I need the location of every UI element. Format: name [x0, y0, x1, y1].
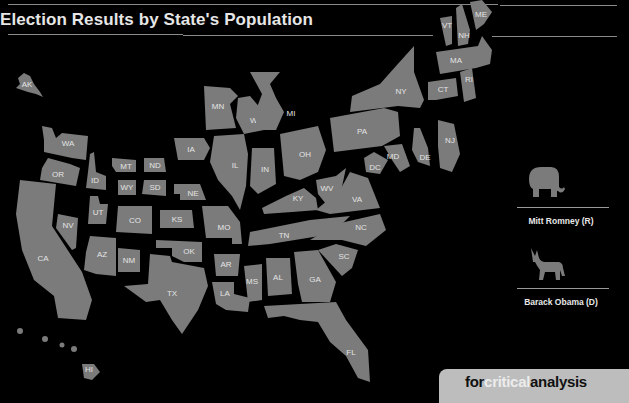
- state-AL[interactable]: AL: [266, 258, 292, 296]
- svg-text:KS: KS: [172, 215, 183, 224]
- svg-text:PA: PA: [357, 127, 368, 136]
- svg-text:CA: CA: [37, 254, 49, 263]
- svg-text:MT: MT: [120, 162, 132, 171]
- state-MN[interactable]: MN: [204, 86, 238, 130]
- svg-text:NH: NH: [458, 31, 470, 40]
- svg-text:WY: WY: [121, 183, 135, 192]
- svg-text:TN: TN: [279, 231, 290, 240]
- svg-text:NC: NC: [355, 223, 367, 232]
- svg-text:DC: DC: [369, 163, 381, 172]
- legend: Mitt Romney (R) Barack Obama (D): [505, 165, 617, 307]
- state-VT[interactable]: VT: [440, 16, 452, 46]
- svg-text:AZ: AZ: [97, 250, 107, 259]
- state-HI[interactable]: HI: [17, 328, 100, 380]
- state-NE[interactable]: NE: [174, 184, 206, 200]
- svg-text:OH: OH: [299, 150, 311, 159]
- state-MT[interactable]: MT: [112, 158, 136, 172]
- state-ME[interactable]: ME: [470, 0, 492, 30]
- state-FL[interactable]: FL: [264, 302, 370, 382]
- state-KS[interactable]: KS: [160, 210, 194, 228]
- svg-text:MI: MI: [287, 109, 296, 118]
- svg-text:DE: DE: [419, 153, 430, 162]
- state-AK[interactable]: AK: [16, 73, 43, 97]
- svg-text:MA: MA: [450, 56, 463, 65]
- state-NJ[interactable]: NJ: [438, 120, 460, 172]
- svg-text:FL: FL: [346, 348, 356, 357]
- svg-text:WA: WA: [62, 139, 75, 148]
- svg-text:MS: MS: [246, 277, 258, 286]
- svg-text:GA: GA: [309, 275, 321, 284]
- svg-text:NV: NV: [62, 221, 74, 230]
- state-UT[interactable]: UT: [88, 196, 108, 224]
- svg-text:AR: AR: [220, 260, 231, 269]
- state-ID[interactable]: ID: [86, 152, 106, 190]
- svg-text:ME: ME: [475, 10, 487, 19]
- state-MS[interactable]: MS: [244, 264, 262, 302]
- state-LA[interactable]: LA: [212, 282, 250, 312]
- state-DE[interactable]: DE: [412, 128, 431, 166]
- svg-text:VA: VA: [352, 195, 363, 204]
- legend-divider: [517, 288, 609, 289]
- svg-text:UT: UT: [93, 208, 104, 217]
- legend-label-republican: Mitt Romney (R): [505, 216, 617, 226]
- svg-text:CO: CO: [129, 216, 141, 225]
- state-ND[interactable]: ND: [144, 158, 166, 172]
- svg-text:WV: WV: [321, 184, 335, 193]
- svg-text:AL: AL: [273, 273, 283, 282]
- svg-text:LA: LA: [220, 289, 230, 298]
- svg-text:NJ: NJ: [445, 136, 455, 145]
- legend-divider: [517, 207, 609, 208]
- elephant-icon: [525, 165, 565, 199]
- state-RI[interactable]: RI: [460, 68, 476, 102]
- svg-text:KY: KY: [293, 194, 304, 203]
- state-MD[interactable]: MD: [384, 144, 410, 172]
- svg-text:RI: RI: [465, 75, 473, 84]
- state-KY[interactable]: KY: [262, 188, 318, 214]
- state-MI[interactable]: MI: [250, 72, 295, 130]
- state-WY[interactable]: WY: [118, 180, 136, 195]
- svg-text:OK: OK: [183, 247, 195, 256]
- svg-text:NE: NE: [187, 189, 198, 198]
- state-OH[interactable]: OH: [280, 126, 326, 180]
- svg-text:SD: SD: [149, 183, 160, 192]
- svg-text:CT: CT: [438, 85, 449, 94]
- svg-text:NM: NM: [123, 256, 136, 265]
- svg-text:MO: MO: [218, 223, 231, 232]
- svg-text:IN: IN: [261, 165, 269, 174]
- badge-word-for: for: [465, 373, 484, 390]
- svg-text:SC: SC: [338, 252, 349, 261]
- state-MO[interactable]: MO: [202, 206, 242, 244]
- state-CT[interactable]: CT: [428, 78, 458, 100]
- svg-text:IL: IL: [232, 161, 239, 170]
- donkey-icon: [527, 248, 567, 282]
- state-AR[interactable]: AR: [214, 254, 240, 276]
- svg-text:HI: HI: [85, 365, 93, 374]
- svg-text:VT: VT: [442, 21, 452, 30]
- svg-text:OR: OR: [52, 170, 64, 179]
- state-NH[interactable]: NH: [456, 4, 470, 46]
- svg-text:MN: MN: [212, 102, 225, 111]
- state-CA[interactable]: CA: [16, 180, 92, 320]
- badge-word-critical: critical: [484, 373, 530, 390]
- svg-text:AK: AK: [22, 80, 33, 89]
- badge-word-analysis: analysis: [530, 373, 587, 390]
- state-IL[interactable]: IL: [210, 134, 248, 210]
- svg-text:ID: ID: [91, 176, 99, 185]
- state-AZ[interactable]: AZ: [84, 236, 116, 276]
- state-SD[interactable]: SD: [142, 180, 166, 196]
- svg-text:TX: TX: [167, 289, 178, 298]
- state-CO[interactable]: CO: [116, 206, 152, 234]
- state-IN[interactable]: IN: [250, 148, 276, 194]
- state-OR[interactable]: OR: [40, 158, 80, 186]
- legend-label-democrat: Barack Obama (D): [505, 297, 617, 307]
- state-WA[interactable]: WA: [42, 126, 88, 160]
- for-critical-analysis-badge: forcriticalanalysis: [439, 369, 629, 403]
- svg-text:MD: MD: [387, 152, 400, 161]
- state-IA[interactable]: IA: [174, 138, 210, 160]
- svg-text:IA: IA: [187, 145, 195, 154]
- svg-text:ND: ND: [149, 161, 161, 170]
- state-NY[interactable]: NY: [350, 46, 424, 112]
- state-DC[interactable]: DC: [364, 152, 388, 174]
- state-NM[interactable]: NM: [118, 248, 140, 272]
- svg-text:NY: NY: [395, 87, 407, 96]
